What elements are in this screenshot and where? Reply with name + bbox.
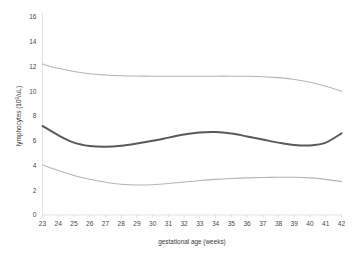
x-axis-tick-label: 33 bbox=[196, 220, 204, 227]
x-axis-tick-label: 40 bbox=[306, 220, 314, 227]
x-axis-tick-label: 23 bbox=[39, 220, 47, 227]
x-axis-tick-label: 24 bbox=[55, 220, 63, 227]
y-axis-tick-label: 16 bbox=[29, 13, 37, 20]
y-axis-tick-labels: 0246810121416 bbox=[29, 13, 37, 218]
y-axis-tick-label: 10 bbox=[29, 88, 37, 95]
x-axis-tick-label: 31 bbox=[165, 220, 173, 227]
x-axis-tick-label: 36 bbox=[243, 220, 251, 227]
y-axis-tick-label: 14 bbox=[29, 38, 37, 45]
x-axis-tick-label: 35 bbox=[228, 220, 236, 227]
chart-series-group bbox=[43, 64, 342, 185]
y-axis-tick-label: 2 bbox=[33, 187, 37, 194]
y-axis-tick-label: 4 bbox=[33, 162, 37, 169]
x-axis-tick-label: 42 bbox=[338, 220, 346, 227]
series-line-lower-reference-limit bbox=[43, 165, 342, 185]
y-axis-tick-label: 12 bbox=[29, 63, 37, 70]
x-axis-tick-label: 27 bbox=[102, 220, 110, 227]
x-axis-tick-label: 30 bbox=[149, 220, 157, 227]
y-axis-title: lymphocytes (109/uL) bbox=[15, 86, 23, 146]
x-axis-tick-label: 28 bbox=[118, 220, 126, 227]
x-axis-tick-marks bbox=[43, 215, 342, 218]
x-axis-tick-label: 32 bbox=[180, 220, 188, 227]
y-axis-tick-label: 8 bbox=[33, 112, 37, 119]
line-chart: 0246810121416 23242526272829303132333435… bbox=[0, 0, 354, 262]
x-axis-tick-label: 39 bbox=[291, 220, 299, 227]
y-axis-tick-label: 0 bbox=[33, 211, 37, 218]
x-axis-title: gestational age (weeks) bbox=[158, 238, 226, 246]
x-axis-tick-label: 34 bbox=[212, 220, 220, 227]
x-axis-tick-label: 26 bbox=[86, 220, 94, 227]
x-axis-tick-label: 29 bbox=[133, 220, 141, 227]
x-axis-tick-label: 41 bbox=[322, 220, 330, 227]
x-axis-tick-label: 38 bbox=[275, 220, 283, 227]
series-line-median bbox=[43, 126, 342, 147]
svg-text:lymphocytes (109/uL): lymphocytes (109/uL) bbox=[15, 86, 23, 146]
plot-axes bbox=[43, 13, 342, 218]
x-axis-tick-label: 25 bbox=[70, 220, 78, 227]
series-line-upper-reference-limit bbox=[43, 64, 342, 91]
x-axis-tick-labels: 2324252627282930313233343536373839404142 bbox=[39, 220, 346, 227]
x-axis-tick-label: 37 bbox=[259, 220, 267, 227]
chart-container: 0246810121416 23242526272829303132333435… bbox=[0, 0, 354, 262]
y-axis-tick-label: 6 bbox=[33, 137, 37, 144]
